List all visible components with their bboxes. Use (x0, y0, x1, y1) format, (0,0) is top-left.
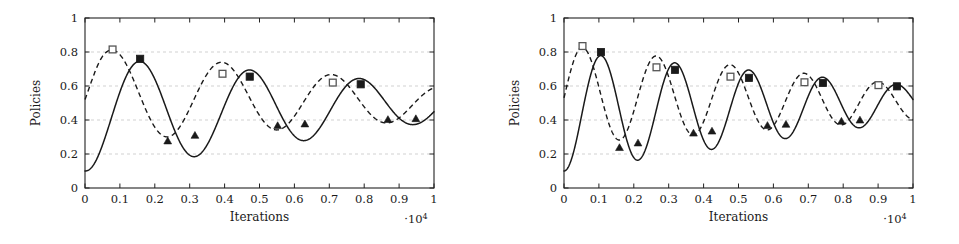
x-tick-label: 0.5 (729, 192, 747, 206)
y-tick-label: 0.4 (60, 113, 78, 127)
y-tick-label: 0 (71, 181, 78, 195)
marker-triangle (856, 116, 864, 123)
x-tick-label: 0.9 (869, 192, 887, 206)
marker-open-square (219, 70, 226, 77)
marker-triangle (384, 116, 392, 123)
plot-frame (85, 18, 434, 188)
x-tick-label: 0.8 (834, 192, 852, 206)
x-tick-label: 0 (81, 192, 88, 206)
x-tick-label: 1 (430, 192, 437, 206)
chart-panel-right: 00.10.20.30.40.50.60.70.80.9100.20.40.60… (479, 0, 959, 244)
axis-ticks (85, 18, 434, 188)
chart-panel-left: 00.10.20.30.40.50.60.70.80.9100.20.40.60… (0, 0, 480, 244)
marker-triangle (838, 117, 846, 124)
y-tick-labels: 00.20.40.60.81 (60, 11, 78, 195)
marker-filled-square (745, 74, 752, 81)
x-tick-label: 0.1 (111, 192, 129, 206)
marker-filled-square (597, 48, 604, 55)
marker-triangle (634, 139, 642, 146)
x-tick-label: 0.8 (355, 192, 373, 206)
marker-triangle (616, 144, 624, 151)
x-tick-label: 0.2 (625, 192, 643, 206)
curve-dashed (85, 50, 434, 137)
y-tick-label: 1 (550, 11, 557, 25)
x-tick-labels: 00.10.20.30.40.50.60.70.80.91 (81, 192, 437, 206)
marker-open-square (579, 43, 586, 50)
x-tick-label: 0.7 (320, 192, 338, 206)
y-axis-title: Policies (29, 80, 43, 126)
marker-triangle (301, 120, 309, 127)
x-tick-label: 0.9 (390, 192, 408, 206)
x-tick-label: 1 (909, 192, 916, 206)
x-axis-exponent-power: 4 (423, 212, 428, 221)
x-tick-label: 0.7 (799, 192, 817, 206)
y-tick-label: 0.8 (60, 45, 78, 59)
x-axis-exponent-label: ·104 (404, 212, 427, 226)
x-tick-label: 0 (560, 192, 567, 206)
y-tick-label: 0.2 (539, 147, 557, 161)
x-tick-labels: 00.10.20.30.40.50.60.70.80.91 (560, 192, 916, 206)
marker-triangle (412, 115, 420, 122)
marker-open-square (109, 46, 116, 53)
y-axis-title: Policies (508, 80, 522, 126)
marker-filled-square (137, 55, 144, 62)
marker-open-square (727, 73, 734, 80)
y-tick-label: 0.6 (60, 79, 78, 93)
marker-triangle (191, 132, 199, 139)
marker-triangle (164, 137, 172, 144)
markers-dashed-series (109, 46, 392, 144)
marker-triangle (764, 122, 772, 129)
y-tick-label: 0.2 (60, 147, 78, 161)
chart-right-svg: 00.10.20.30.40.50.60.70.80.9100.20.40.60… (479, 0, 959, 244)
y-tick-label: 0.4 (539, 113, 557, 127)
marker-open-square (653, 64, 660, 71)
marker-triangle (782, 120, 790, 127)
marker-open-square (875, 82, 882, 89)
marker-triangle (708, 127, 716, 134)
marker-filled-square (671, 66, 678, 73)
marker-open-square (329, 79, 336, 86)
marker-filled-square (819, 79, 826, 86)
y-tick-label: 1 (71, 11, 78, 25)
x-tick-label: 0.4 (215, 192, 233, 206)
series-solid-series (85, 61, 434, 171)
curve-solid (85, 61, 434, 171)
x-tick-label: 0.5 (250, 192, 268, 206)
chart-left-svg: 00.10.20.30.40.50.60.70.80.9100.20.40.60… (0, 0, 480, 244)
x-tick-label: 0.6 (285, 192, 303, 206)
x-axis-title: Iterations (230, 210, 289, 224)
marker-triangle (690, 129, 698, 136)
plot-frame (564, 18, 913, 188)
y-tick-labels: 00.20.40.60.81 (539, 11, 557, 195)
x-tick-label: 0.2 (146, 192, 164, 206)
marker-open-square (801, 79, 808, 86)
x-axis-title: Iterations (709, 210, 768, 224)
marker-filled-square (357, 81, 364, 88)
y-tick-label: 0.8 (539, 45, 557, 59)
x-axis-exponent-label: ·104 (883, 212, 906, 226)
y-tick-label: 0.6 (539, 79, 557, 93)
y-tick-label: 0 (550, 181, 557, 195)
x-axis-exponent-power: 4 (902, 212, 907, 221)
marker-triangle (274, 122, 282, 129)
axis-ticks (564, 18, 913, 188)
figure-page: 00.10.20.30.40.50.60.70.80.9100.20.40.60… (0, 0, 959, 244)
gridlines (85, 52, 434, 154)
x-tick-label: 0.6 (764, 192, 782, 206)
marker-filled-square (893, 83, 900, 90)
x-tick-label: 0.1 (590, 192, 608, 206)
x-tick-label: 0.4 (694, 192, 712, 206)
x-tick-label: 0.3 (660, 192, 678, 206)
marker-filled-square (246, 73, 253, 80)
x-tick-label: 0.3 (181, 192, 199, 206)
series-dashed-series (85, 50, 434, 137)
